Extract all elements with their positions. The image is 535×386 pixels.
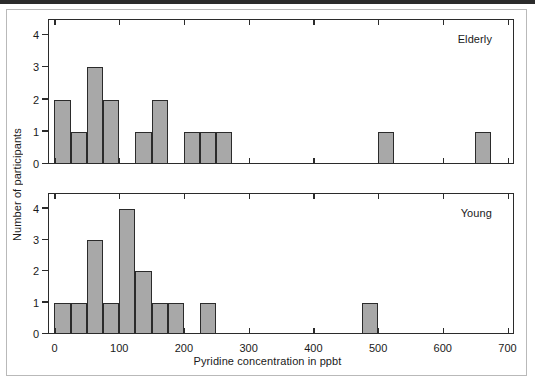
y-axis-label: Number of participants xyxy=(6,100,28,270)
histogram-bar xyxy=(71,132,87,164)
y-axis-tick-label: 4 xyxy=(33,203,39,215)
x-axis-tick-bottom xyxy=(184,328,185,334)
x-axis-tick-label: 600 xyxy=(434,342,452,354)
y-axis-tick-label: 3 xyxy=(33,61,39,73)
y-axis-tick xyxy=(42,34,48,35)
x-axis-tick-bottom xyxy=(249,158,250,164)
histogram-bar xyxy=(475,132,491,164)
y-axis-tick xyxy=(42,98,48,99)
histogram-bar xyxy=(119,209,135,334)
x-axis-tick-bottom xyxy=(54,158,55,164)
x-axis-tick-top xyxy=(508,193,509,199)
x-axis-tick-bottom xyxy=(443,328,444,334)
x-axis-tick-bottom xyxy=(184,158,185,164)
x-axis-tick-label: 500 xyxy=(369,342,387,354)
histogram-bar xyxy=(103,100,119,164)
x-axis-tick-label: 200 xyxy=(175,342,193,354)
histogram-bar xyxy=(362,303,378,334)
x-axis-tick-top xyxy=(378,19,379,25)
histogram-bar xyxy=(71,303,87,334)
figure-root: Number of participants Pyridine concentr… xyxy=(0,0,535,386)
header-rule xyxy=(0,0,535,4)
panel-young: Young 012340100200300400500600700 xyxy=(48,193,514,334)
x-axis-tick-top xyxy=(184,19,185,25)
histogram-bar xyxy=(216,132,232,164)
x-axis-tick-label: 300 xyxy=(239,342,257,354)
y-axis-tick xyxy=(42,163,48,164)
x-axis-tick-top xyxy=(249,193,250,199)
y-axis-tick xyxy=(42,66,48,67)
y-axis-tick xyxy=(42,130,48,131)
y-axis-tick-label: 0 xyxy=(33,158,39,170)
x-axis-tick-top xyxy=(443,19,444,25)
histogram-bar xyxy=(378,132,394,164)
x-axis-tick-bottom xyxy=(119,158,120,164)
histogram-bar xyxy=(135,132,151,164)
y-axis-tick-label: 4 xyxy=(33,29,39,41)
x-axis-tick-label: 0 xyxy=(51,342,57,354)
x-axis-label: Pyridine concentration in ppbt xyxy=(0,355,535,367)
histogram-bar xyxy=(200,303,216,334)
y-axis-tick-label: 1 xyxy=(33,126,39,138)
x-axis-tick-bottom xyxy=(508,158,509,164)
x-axis-tick-label: 700 xyxy=(498,342,516,354)
x-axis-tick-bottom xyxy=(313,158,314,164)
x-axis-tick-bottom xyxy=(378,328,379,334)
histogram-bar xyxy=(103,303,119,334)
histogram-bar xyxy=(200,132,216,164)
x-axis-tick-top xyxy=(443,193,444,199)
x-axis-tick-bottom xyxy=(313,328,314,334)
y-axis-tick xyxy=(42,301,48,302)
histogram-bar xyxy=(87,67,103,164)
x-axis-tick-bottom xyxy=(119,328,120,334)
histogram-bar xyxy=(87,240,103,334)
y-axis-tick xyxy=(42,333,48,334)
x-axis-tick-top xyxy=(508,19,509,25)
y-axis-tick xyxy=(42,239,48,240)
x-axis-tick-bottom xyxy=(249,328,250,334)
bars-elderly xyxy=(48,19,514,164)
y-axis-tick-label: 2 xyxy=(33,265,39,277)
y-axis-tick-label: 1 xyxy=(33,297,39,309)
panel-elderly: Elderly 01234 xyxy=(48,19,514,164)
x-axis-tick-top xyxy=(119,19,120,25)
bars-young xyxy=(48,193,514,334)
x-axis-tick-top xyxy=(119,193,120,199)
x-axis-tick-top xyxy=(313,193,314,199)
y-axis-tick-label: 3 xyxy=(33,234,39,246)
x-axis-tick-bottom xyxy=(378,158,379,164)
histogram-bar xyxy=(54,303,70,334)
x-axis-tick-label: 400 xyxy=(304,342,322,354)
y-axis-tick-label: 0 xyxy=(33,328,39,340)
x-axis-tick-label: 100 xyxy=(110,342,128,354)
histogram-bar xyxy=(135,271,151,334)
panel-title-young: Young xyxy=(461,207,492,219)
y-axis-tick xyxy=(42,270,48,271)
histogram-bar xyxy=(152,303,168,334)
x-axis-tick-top xyxy=(249,19,250,25)
histogram-bar xyxy=(168,303,184,334)
x-axis-tick-top xyxy=(54,193,55,199)
y-axis-tick xyxy=(42,207,48,208)
histogram-bar xyxy=(152,100,168,164)
x-axis-tick-bottom xyxy=(508,328,509,334)
x-axis-tick-bottom xyxy=(443,158,444,164)
x-axis-tick-top xyxy=(313,19,314,25)
histogram-bar xyxy=(184,132,200,164)
y-axis-tick-label: 2 xyxy=(33,94,39,106)
panel-title-elderly: Elderly xyxy=(458,33,492,45)
x-axis-tick-top xyxy=(54,19,55,25)
histogram-bar xyxy=(54,100,70,164)
x-axis-tick-top xyxy=(184,193,185,199)
x-axis-tick-bottom xyxy=(54,328,55,334)
x-axis-tick-top xyxy=(378,193,379,199)
